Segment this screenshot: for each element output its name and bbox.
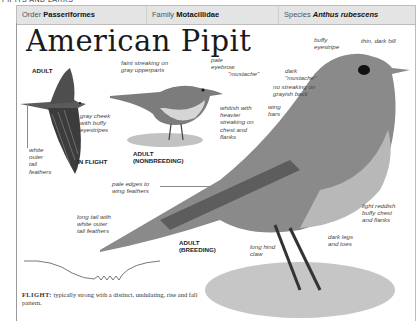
leader-line <box>160 186 210 187</box>
annotation-wing-bars: wing bars <box>268 103 281 117</box>
flight-pattern-diagram <box>22 253 162 287</box>
order-value: Passeriformes <box>43 10 95 19</box>
annotation-dark-legs: dark legs and toes <box>328 233 353 247</box>
breeding-caption: ADULT (BREEDING) <box>179 239 216 253</box>
species-label: Species <box>284 10 311 19</box>
annotation-dark-mustache: dark "mustache" <box>285 67 316 81</box>
taxonomy-order: Order Passeriformes <box>17 6 147 24</box>
leader-line <box>27 104 28 148</box>
family-value: Motacillidae <box>176 10 219 19</box>
annotation-long-tail: long tail with white outer tail feathers <box>77 213 111 235</box>
annotation-pale-edges: pale edges to wing feathers <box>112 180 149 194</box>
annotation-long-hind-claw: long hind claw <box>250 243 275 257</box>
section-header: PIPITS AND LARKS <box>2 0 73 3</box>
annotation-thin-dark-bill: thin, dark bill <box>361 37 396 44</box>
annotation-no-streaking-back: no streaking on grayish back <box>273 83 315 97</box>
taxonomy-bar: Order Passeriformes Family Motacillidae … <box>16 5 416 25</box>
order-label: Order <box>22 10 41 19</box>
family-label: Family <box>152 10 174 19</box>
taxonomy-family: Family Motacillidae <box>147 6 279 24</box>
flight-label: FLIGHT: <box>22 291 52 298</box>
flight-description: FLIGHT: typically strong with a distinct… <box>22 291 202 307</box>
flying-age-label: ADULT <box>32 67 53 74</box>
taxonomy-species: Species Anthus rubescens <box>279 6 415 24</box>
annotation-white-outer-tail-flying: white outer tail feathers <box>29 146 51 175</box>
annotation-light-reddish-chest: light reddish buffy chest and flanks <box>362 202 395 224</box>
annotation-buffy-eyestripe: buffy eyestripe <box>314 36 339 50</box>
species-value: Anthus rubescens <box>313 10 378 19</box>
